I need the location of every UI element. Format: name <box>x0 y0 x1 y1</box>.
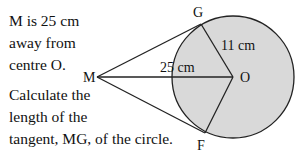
label-og-length: 11 cm <box>221 38 255 53</box>
label-m: M <box>83 70 96 85</box>
label-o: O <box>240 70 250 85</box>
tangent-diagram: M O G F 25 cm 11 cm <box>0 0 300 156</box>
label-f: F <box>197 138 205 153</box>
label-g: G <box>193 5 203 20</box>
label-mo-length: 25 cm <box>160 60 195 75</box>
